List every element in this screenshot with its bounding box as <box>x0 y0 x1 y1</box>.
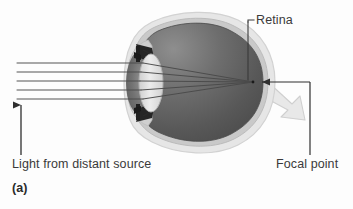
focal-point-marker <box>252 81 255 84</box>
focal-point-label: Focal point <box>276 157 338 171</box>
light-source-label: Light from distant source <box>12 157 151 171</box>
eye-diagram-svg <box>0 0 353 209</box>
retina-label: Retina <box>256 13 293 27</box>
panel-label: (a) <box>12 181 28 195</box>
eye-optics-figure: Retina Focal point Light from distant so… <box>0 0 353 209</box>
